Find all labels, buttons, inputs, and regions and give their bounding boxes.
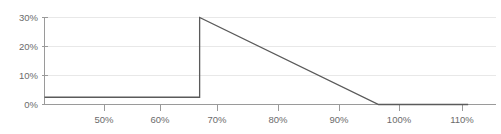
x-tick-label-100: 100%: [387, 114, 412, 125]
y-tick-labels: 30% 20% 10% 0%: [19, 12, 39, 110]
x-tick-label-110: 110%: [450, 114, 474, 125]
y-tick-label-20: 20%: [19, 41, 39, 52]
line-chart: 30% 20% 10% 0% 50% 60% 70% 80% 90% 100% …: [0, 0, 501, 134]
y-tick-label-0: 0%: [24, 99, 38, 110]
y-axis: [42, 17, 48, 105]
chart-canvas: 30% 20% 10% 0% 50% 60% 70% 80% 90% 100% …: [0, 0, 501, 134]
x-axis: [45, 105, 496, 111]
x-tick-label-90: 90%: [329, 114, 349, 125]
x-tick-labels: 50% 60% 70% 80% 90% 100% 110%: [94, 114, 474, 125]
y-tick-label-10: 10%: [19, 70, 39, 81]
x-tick-label-50: 50%: [94, 114, 114, 125]
x-tick-label-70: 70%: [207, 114, 227, 125]
gridlines: [45, 18, 496, 76]
y-tick-label-30: 30%: [19, 12, 39, 23]
x-tick-label-60: 60%: [150, 114, 170, 125]
x-tick-label-80: 80%: [268, 114, 288, 125]
data-series-line: [45, 18, 469, 105]
